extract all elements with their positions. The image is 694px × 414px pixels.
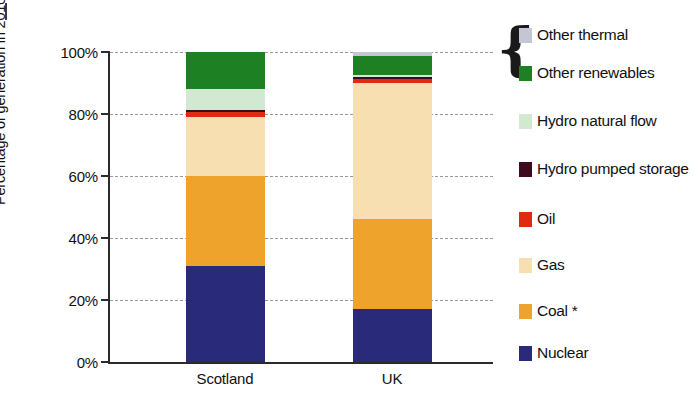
gridline [110,176,493,177]
y-axis-tick-label: 100% [60,44,98,61]
bar-segment [186,117,265,176]
bar-segment [186,112,265,117]
y-axis-tick [101,51,110,53]
legend-swatch-icon [519,346,532,361]
bar-segment [186,52,265,89]
x-axis-line [108,362,493,364]
legend-swatch-icon [519,304,532,319]
legend-item[interactable]: Other thermal [519,26,628,43]
legend-item[interactable]: Oil [519,210,555,227]
legend-swatch-icon [519,114,532,129]
y-axis-tick-label: 20% [69,292,98,309]
legend-label: Gas [537,256,565,273]
legend-swatch-icon [519,212,532,227]
legend-label: Other thermal [537,26,628,43]
y-axis-tick [101,361,110,363]
legend-label: Other renewables [537,64,655,81]
y-axis-tick [101,299,110,301]
y-axis-line [108,52,110,364]
bar-segment [186,266,265,362]
y-axis-tick-label: 80% [69,106,98,123]
bar-segment [353,219,432,309]
y-axis-tick-label: 40% [69,230,98,247]
legend-swatch-icon [519,28,532,43]
legend-item[interactable]: Other renewables [519,64,655,81]
x-axis-label-uk: UK [312,370,472,387]
y-axis-tick-label: 0% [77,354,98,371]
y-axis-title: Percentage of generation in 2010 [0,0,8,205]
gridline [110,114,493,115]
stacked-bar [353,52,432,362]
gridline [110,300,493,301]
x-axis-label-scotland: Scotland [145,370,305,387]
legend-label: Hydro natural flow [537,112,657,129]
bar-segment [353,79,432,83]
bar-segment [353,52,432,56]
legend-item[interactable]: Hydro pumped storage [519,160,689,177]
y-axis-tick [101,237,110,239]
gridline [110,52,493,53]
y-axis-tick [101,175,110,177]
bar-segment [186,176,265,266]
y-axis-tick [101,113,110,115]
legend-swatch-icon [519,66,532,81]
bar-segment [353,83,432,219]
legend-item[interactable]: Gas [519,256,565,273]
legend-swatch-icon [519,258,532,273]
plot-area: 0%20%40%60%80%100% ScotlandUK [108,52,493,364]
legend-item[interactable]: Hydro natural flow [519,112,657,129]
bar-segment [353,56,432,76]
bar-segment [353,75,432,77]
bar-segment [186,110,265,112]
bar-segment [353,309,432,362]
gridline [110,238,493,239]
y-axis-tick-label: 60% [69,168,98,185]
legend-label: Coal * [537,302,577,319]
stacked-bar [186,52,265,362]
legend-item[interactable]: Coal * [519,302,577,319]
legend-label: Oil [537,210,555,227]
legend-label: Nuclear [537,344,588,361]
legend-label: Hydro pumped storage [537,160,689,177]
bar-segment [186,89,265,110]
bar-segment [353,77,432,79]
legend-item[interactable]: Nuclear [519,344,588,361]
chart-figure: Percentage of generation in 2010 0%20%40… [0,0,694,414]
legend-swatch-icon [519,162,532,177]
